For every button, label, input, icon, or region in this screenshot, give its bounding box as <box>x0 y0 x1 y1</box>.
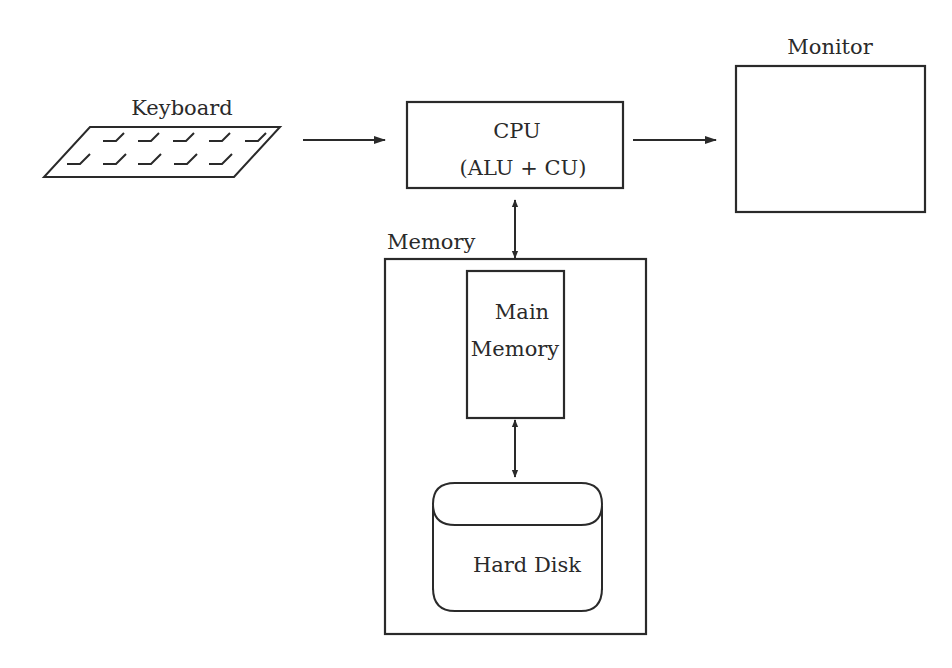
monitor-icon <box>736 66 925 212</box>
monitor-label: Monitor <box>787 35 873 59</box>
disk-cylinder-icon <box>433 483 602 611</box>
main-memory-label-line1: Main <box>495 300 549 324</box>
cpu-node: CPU (ALU + CU) <box>407 102 623 188</box>
keyboard-label: Keyboard <box>131 96 233 120</box>
main-memory-label-line2: Memory <box>471 337 560 361</box>
architecture-diagram: Keyboard CPU (ALU + CU) Monitor <box>0 0 952 668</box>
monitor-node: Monitor <box>736 35 925 212</box>
cpu-sublabel: (ALU + CU) <box>460 156 587 180</box>
memory-label: Memory <box>387 230 476 254</box>
cpu-label: CPU <box>493 119 541 143</box>
keyboard-node: Keyboard <box>44 96 280 177</box>
memory-node: Memory Main Memory Hard Disk <box>385 230 646 634</box>
hard-disk-label: Hard Disk <box>473 553 581 577</box>
keyboard-icon <box>44 127 280 177</box>
hard-disk-node: Hard Disk <box>433 483 602 611</box>
main-memory-node: Main Memory <box>467 271 564 418</box>
